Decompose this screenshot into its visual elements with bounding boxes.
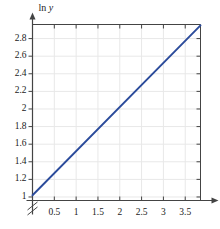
top-axis-ticks	[54, 25, 185, 29]
horizontal-gridlines	[33, 39, 201, 197]
y-tick-label: 2.4	[15, 69, 27, 79]
axis-lines	[27, 13, 219, 215]
data-series-group	[33, 25, 201, 195]
y-tick-label: 1.4	[15, 157, 27, 167]
chart-canvas	[0, 0, 220, 229]
chart-figure: 11.21.41.61.822.22.42.62.8 0.511.522.533…	[0, 0, 220, 229]
vertical-gridlines	[54, 25, 185, 201]
y-tick-label: 1.8	[15, 122, 27, 132]
y-tick-label: 1	[22, 192, 27, 202]
y-tick-label: 2.8	[15, 34, 27, 44]
y-tick-label: 1.2	[15, 174, 27, 184]
y-tick-label: 2.6	[15, 51, 27, 61]
y-tick-label: 1.6	[15, 139, 27, 149]
x-tick-label: 3.5	[170, 208, 200, 218]
y-axis-title: ln y	[39, 3, 54, 13]
y-tick-label: 2.2	[15, 86, 27, 96]
right-axis-ticks	[197, 39, 201, 197]
y-tick-label: 2	[22, 104, 27, 114]
